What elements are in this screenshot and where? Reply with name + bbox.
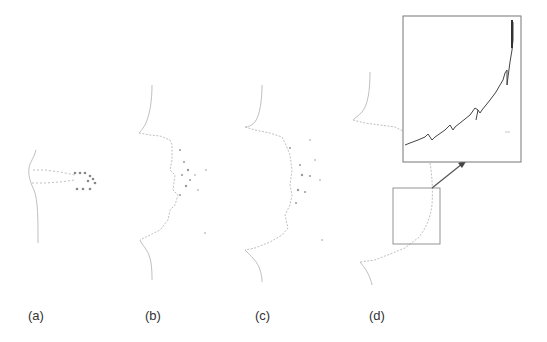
panel-b-diagram bbox=[139, 85, 207, 280]
zoom-arrow bbox=[432, 160, 467, 188]
crack-propagation-figure: (a) (b) (c) (d) bbox=[0, 0, 547, 342]
panel-c-diagram bbox=[245, 85, 323, 282]
zoom-region-box bbox=[393, 188, 440, 244]
panel-label-c: (c) bbox=[255, 308, 270, 323]
inset-magnified-view bbox=[403, 16, 521, 162]
panel-label-b: (b) bbox=[145, 308, 161, 323]
panel-label-d: (d) bbox=[369, 308, 385, 323]
panel-a-diagram bbox=[29, 150, 97, 243]
panel-label-a: (a) bbox=[28, 308, 44, 323]
